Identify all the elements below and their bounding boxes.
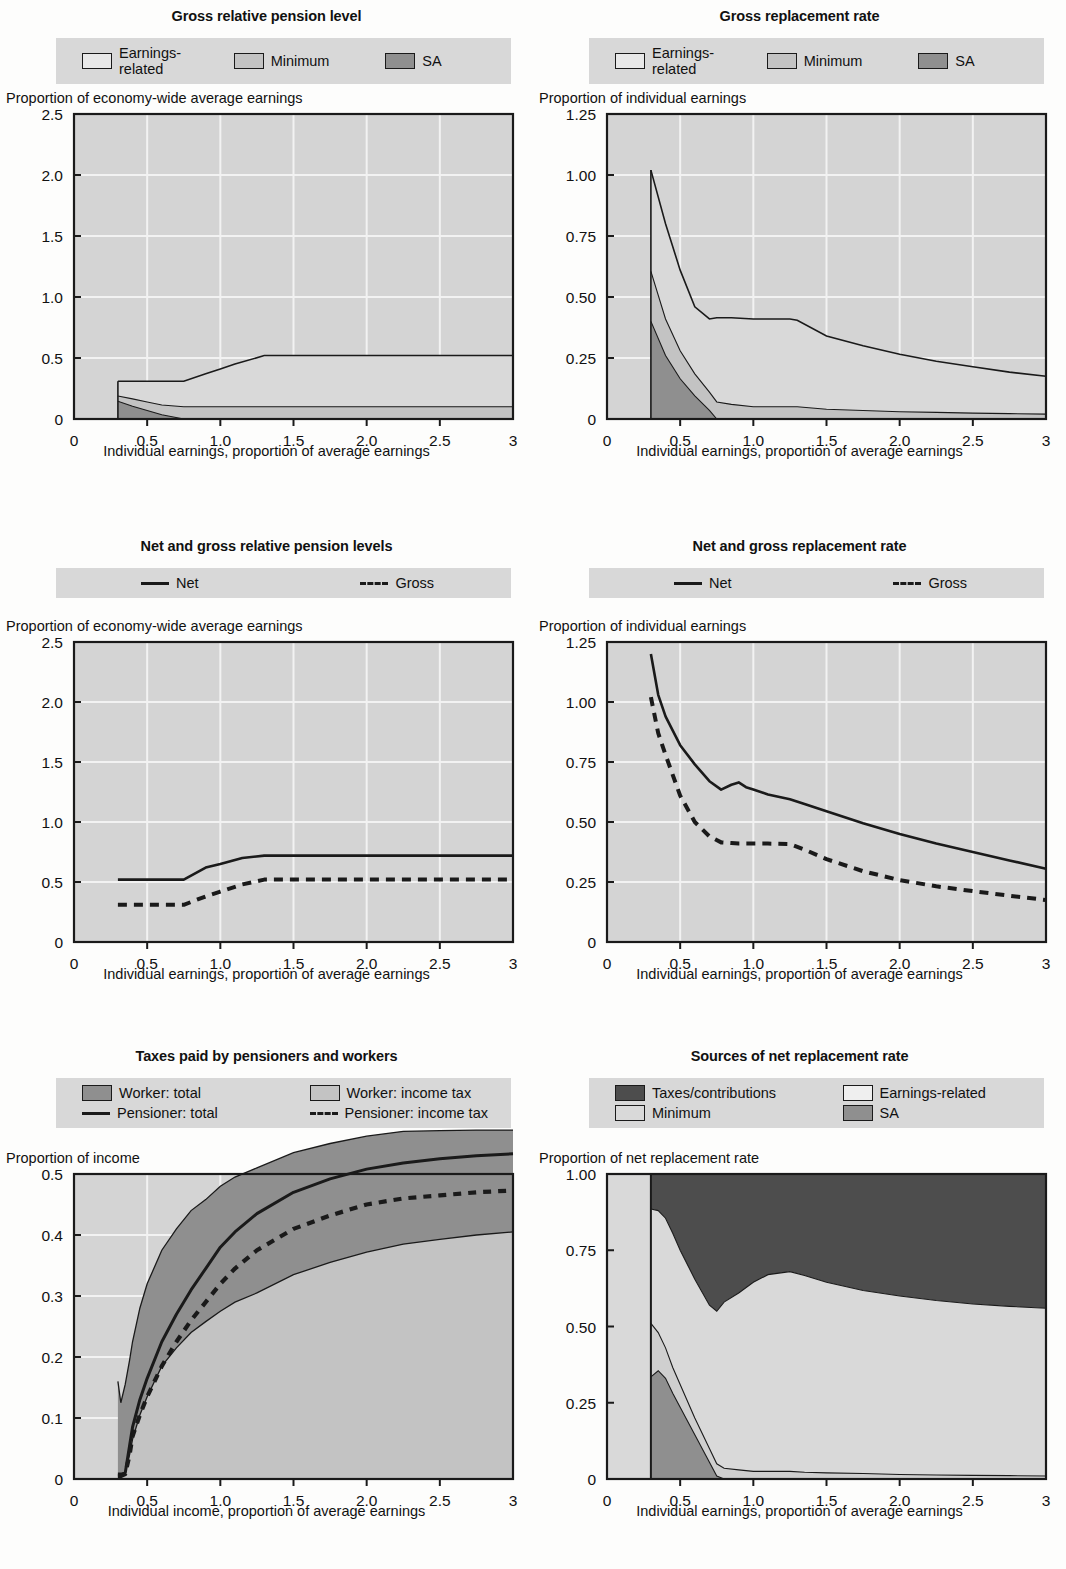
x-tick-label: 1.0	[743, 955, 765, 972]
x-tick-label: 1.5	[816, 432, 838, 449]
charts-grid: Gross relative pension levelEarnings-rel…	[0, 0, 1066, 1569]
y-tick-label: 0.1	[41, 1410, 63, 1427]
y-tick-label: 1.00	[566, 1166, 597, 1183]
x-tick-label: 3	[1042, 1492, 1051, 1509]
x-tick-label: 1.5	[816, 1492, 838, 1509]
x-tick-label: 0	[603, 955, 612, 972]
x-tick-label: 2.0	[356, 432, 378, 449]
y-tick-label: 1.0	[41, 814, 63, 831]
x-tick-label: 0	[70, 1492, 79, 1509]
x-tick-label: 0.5	[136, 432, 158, 449]
chart-panel-gross-replacement-rate: Gross replacement rateEarnings-relatedMi…	[533, 0, 1066, 530]
y-tick-label: 1.5	[41, 228, 63, 245]
y-tick-label: 1.25	[566, 634, 596, 651]
plot-area-net-and-gross-relative-pension-levels: 00.51.01.52.02.500.51.01.52.02.53	[0, 530, 533, 1030]
y-tick-label: 0.3	[41, 1288, 63, 1305]
x-tick-label: 0	[603, 1492, 612, 1509]
y-tick-label: 0	[587, 411, 596, 428]
y-tick-label: 0.75	[566, 754, 596, 771]
y-tick-label: 1.00	[566, 694, 597, 711]
x-tick-label: 2.5	[962, 432, 984, 449]
y-tick-label: 1.0	[41, 289, 63, 306]
plot-area-gross-replacement-rate: 00.250.500.751.001.2500.51.01.52.02.53	[533, 0, 1066, 500]
x-tick-label: 0.5	[136, 1492, 158, 1509]
plot-area-gross-relative-pension-level: 00.51.01.52.02.500.51.01.52.02.53	[0, 0, 533, 500]
y-tick-label: 0	[54, 934, 63, 951]
x-tick-label: 3	[509, 1492, 518, 1509]
chart-panel-taxes-paid-by-pensioners-and-workers: Taxes paid by pensioners and workersWork…	[0, 1040, 533, 1569]
y-tick-label: 0.25	[566, 874, 596, 891]
x-tick-label: 0.5	[669, 955, 691, 972]
x-tick-label: 2.0	[889, 432, 911, 449]
y-tick-label: 0.4	[41, 1227, 63, 1244]
y-tick-label: 0.5	[41, 1166, 63, 1183]
y-tick-label: 0	[587, 934, 596, 951]
plot-area-sources-of-net-replacement-rate: 00.250.500.751.0000.51.01.52.02.53	[533, 1040, 1066, 1540]
x-tick-label: 1.0	[210, 955, 232, 972]
x-tick-label: 0.5	[136, 955, 158, 972]
y-tick-label: 0.50	[566, 1319, 597, 1336]
x-tick-label: 0	[70, 955, 79, 972]
x-tick-label: 1.0	[210, 432, 232, 449]
x-tick-label: 0	[70, 432, 79, 449]
y-tick-label: 0.5	[41, 874, 63, 891]
x-tick-label: 1.5	[283, 432, 305, 449]
plot-area-net-and-gross-replacement-rate: 00.250.500.751.001.2500.51.01.52.02.53	[533, 530, 1066, 1030]
y-tick-label: 2.0	[41, 167, 63, 184]
chart-panel-sources-of-net-replacement-rate: Sources of net replacement rateTaxes/con…	[533, 1040, 1066, 1569]
y-tick-label: 1.00	[566, 167, 597, 184]
x-tick-label: 2.5	[429, 432, 451, 449]
plot-area-taxes-paid-by-pensioners-and-workers: 00.10.20.30.40.500.51.01.52.02.53	[0, 1040, 533, 1540]
x-tick-label: 2.5	[962, 955, 984, 972]
chart-panel-net-and-gross-relative-pension-levels: Net and gross relative pension levelsNet…	[0, 530, 533, 1040]
x-tick-label: 1.5	[283, 955, 305, 972]
y-tick-label: 1.5	[41, 754, 63, 771]
x-tick-label: 2.5	[429, 955, 451, 972]
y-tick-label: 2.5	[41, 634, 63, 651]
x-tick-label: 3	[509, 955, 518, 972]
y-tick-label: 0.75	[566, 1242, 596, 1259]
x-tick-label: 1.0	[210, 1492, 232, 1509]
y-tick-label: 0	[587, 1471, 596, 1488]
y-tick-label: 2.0	[41, 694, 63, 711]
x-tick-label: 2.0	[889, 1492, 911, 1509]
chart-panel-gross-relative-pension-level: Gross relative pension levelEarnings-rel…	[0, 0, 533, 530]
x-tick-label: 3	[509, 432, 518, 449]
x-tick-label: 2.5	[962, 1492, 984, 1509]
y-tick-label: 0.50	[566, 289, 597, 306]
x-tick-label: 2.5	[429, 1492, 451, 1509]
x-tick-label: 3	[1042, 432, 1051, 449]
chart-panel-net-and-gross-replacement-rate: Net and gross replacement rateNetGrossPr…	[533, 530, 1066, 1040]
x-tick-label: 1.5	[283, 1492, 305, 1509]
x-tick-label: 0.5	[669, 1492, 691, 1509]
x-tick-label: 0.5	[669, 432, 691, 449]
x-tick-label: 2.0	[356, 1492, 378, 1509]
y-tick-label: 0	[54, 1471, 63, 1488]
y-tick-label: 0.75	[566, 228, 596, 245]
x-tick-label: 0	[603, 432, 612, 449]
x-tick-label: 2.0	[889, 955, 911, 972]
y-tick-label: 0.5	[41, 350, 63, 367]
y-tick-label: 1.25	[566, 106, 596, 123]
y-tick-label: 2.5	[41, 106, 63, 123]
y-tick-label: 0.2	[41, 1349, 63, 1366]
y-tick-label: 0.50	[566, 814, 597, 831]
x-tick-label: 1.0	[743, 432, 765, 449]
x-tick-label: 2.0	[356, 955, 378, 972]
y-tick-label: 0.25	[566, 350, 596, 367]
y-tick-label: 0	[54, 411, 63, 428]
x-tick-label: 1.5	[816, 955, 838, 972]
x-tick-label: 1.0	[743, 1492, 765, 1509]
y-tick-label: 0.25	[566, 1395, 596, 1412]
x-tick-label: 3	[1042, 955, 1051, 972]
